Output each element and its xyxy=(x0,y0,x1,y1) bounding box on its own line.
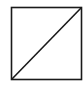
diagram-canvas xyxy=(0,0,84,85)
background xyxy=(0,0,84,85)
